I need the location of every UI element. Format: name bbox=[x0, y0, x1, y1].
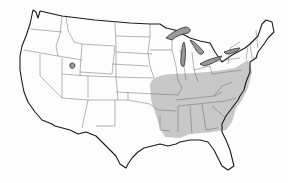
great-lakes bbox=[70, 27, 240, 68]
great-salt-lake bbox=[70, 63, 75, 68]
lake-ontario bbox=[224, 48, 240, 54]
highlighted-range bbox=[150, 60, 252, 138]
us-map-svg bbox=[0, 0, 288, 183]
lake-michigan bbox=[181, 42, 186, 67]
us-map: Contiguous United States bbox=[0, 0, 288, 183]
